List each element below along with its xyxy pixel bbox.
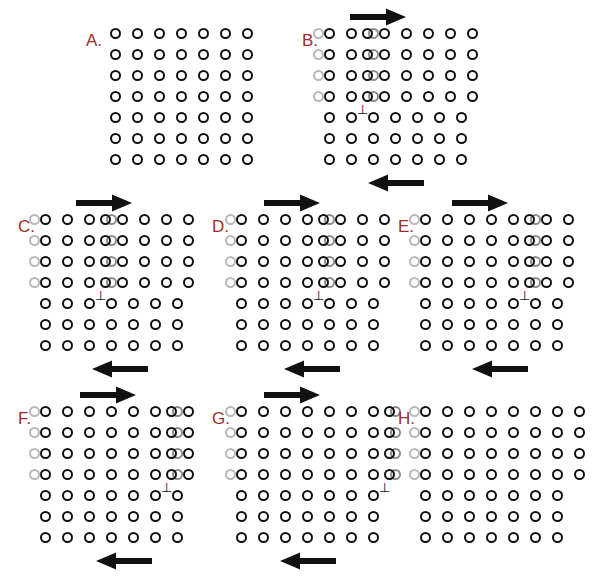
atom <box>183 427 194 438</box>
atom <box>467 91 478 102</box>
atom <box>132 112 143 123</box>
atom <box>346 28 357 39</box>
atom <box>530 532 541 543</box>
atom <box>40 469 51 480</box>
atom <box>530 490 541 501</box>
atom <box>220 112 231 123</box>
atom <box>541 256 552 267</box>
atom <box>442 469 453 480</box>
atom <box>508 235 519 246</box>
atom <box>236 511 247 522</box>
atom <box>401 28 412 39</box>
atom <box>563 256 574 267</box>
atom <box>324 70 335 81</box>
atom <box>508 340 519 351</box>
atom-ghost <box>29 448 40 459</box>
atom <box>62 235 73 246</box>
atom <box>324 532 335 543</box>
atom <box>368 298 379 309</box>
atom <box>530 427 541 438</box>
atom <box>242 49 253 60</box>
atom <box>117 214 128 225</box>
atom-ghost <box>409 235 420 246</box>
atom <box>486 298 497 309</box>
dislocation-symbol-icon: ⊥ <box>161 481 172 494</box>
panel-label-a: A. <box>86 32 102 49</box>
atom <box>183 448 194 459</box>
atom <box>456 112 467 123</box>
atom <box>335 277 346 288</box>
atom <box>401 91 412 102</box>
atom <box>62 511 73 522</box>
atom-ghost <box>29 214 40 225</box>
shear-arrow-right-icon <box>264 194 320 212</box>
atom <box>420 340 431 351</box>
atom <box>280 469 291 480</box>
atom <box>357 214 368 225</box>
atom <box>335 235 346 246</box>
atom <box>324 448 335 459</box>
atom <box>574 427 585 438</box>
atom <box>423 28 434 39</box>
atom <box>324 427 335 438</box>
atom <box>464 406 475 417</box>
atom <box>62 340 73 351</box>
atom <box>530 340 541 351</box>
atom <box>467 49 478 60</box>
atom <box>172 319 183 330</box>
atom <box>335 256 346 267</box>
atom <box>62 469 73 480</box>
atom <box>464 256 475 267</box>
atom <box>464 319 475 330</box>
atom <box>280 298 291 309</box>
atom <box>258 532 269 543</box>
atom <box>106 469 117 480</box>
atom <box>236 214 247 225</box>
atom <box>280 340 291 351</box>
atom <box>346 406 357 417</box>
atom <box>242 28 253 39</box>
atom <box>62 298 73 309</box>
atom <box>280 448 291 459</box>
atom <box>110 28 121 39</box>
atom <box>242 154 253 165</box>
atom <box>442 448 453 459</box>
atom <box>390 154 401 165</box>
atom <box>541 277 552 288</box>
atom <box>117 277 128 288</box>
atom-ghost <box>409 427 420 438</box>
atom <box>486 214 497 225</box>
atom <box>139 214 150 225</box>
atom <box>280 235 291 246</box>
atom <box>412 154 423 165</box>
atom <box>280 214 291 225</box>
atom <box>420 277 431 288</box>
atom <box>508 277 519 288</box>
atom <box>464 511 475 522</box>
atom <box>302 532 313 543</box>
atom <box>324 28 335 39</box>
atom <box>183 256 194 267</box>
atom <box>198 28 209 39</box>
atom <box>420 235 431 246</box>
atom <box>412 133 423 144</box>
atom <box>280 532 291 543</box>
atom <box>154 49 165 60</box>
atom <box>420 532 431 543</box>
dislocation-symbol-icon: ⊥ <box>379 481 390 494</box>
dislocation-symbol-icon: ⊥ <box>519 289 530 302</box>
atom <box>302 340 313 351</box>
atom <box>464 340 475 351</box>
atom <box>128 406 139 417</box>
atom <box>154 112 165 123</box>
atom-ghost <box>225 406 236 417</box>
atom <box>442 214 453 225</box>
atom <box>132 133 143 144</box>
atom <box>324 511 335 522</box>
dislocation-symbol-icon: ⊥ <box>313 289 324 302</box>
atom <box>324 91 335 102</box>
atom-ghost <box>29 406 40 417</box>
atom <box>464 277 475 288</box>
atom <box>552 406 563 417</box>
atom <box>183 277 194 288</box>
